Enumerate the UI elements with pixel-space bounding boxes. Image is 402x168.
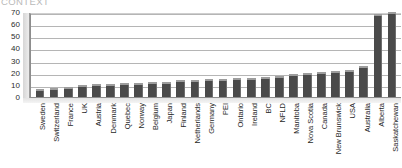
bar[interactable] [106, 86, 115, 97]
x-label-slot: Canada [314, 103, 328, 168]
x-label-slot: Saskatchewan [385, 103, 399, 168]
bar-slot [89, 14, 103, 97]
bar-slot [117, 14, 131, 97]
plot-area [30, 13, 401, 98]
x-label-slot: Norway [131, 103, 145, 168]
bar-slot [75, 14, 89, 97]
y-axis-tick: 50 [11, 33, 20, 41]
bar[interactable] [36, 91, 45, 97]
x-label-slot: France [60, 103, 74, 168]
bar[interactable] [50, 90, 59, 97]
bar-slot [343, 14, 357, 97]
context-heading: CONTEXT [1, 0, 49, 5]
bar-slot [33, 14, 47, 97]
x-label-slot: Manitoba [286, 103, 300, 168]
y-axis-tick: 0 [16, 94, 20, 102]
bar[interactable] [345, 72, 354, 98]
bar[interactable] [134, 85, 143, 97]
bar[interactable] [374, 16, 383, 97]
bar-chart: 706050403020100 SwedenSwitzerlandFranceU… [0, 13, 402, 168]
bar[interactable] [359, 68, 368, 97]
bar-slot [286, 14, 300, 97]
bar[interactable] [191, 82, 200, 97]
bar[interactable] [162, 84, 171, 97]
x-label-slot: Germany [201, 103, 215, 168]
bar-slot [188, 14, 202, 97]
bar[interactable] [64, 89, 73, 98]
bar[interactable] [289, 76, 298, 97]
x-label-slot: Ontario [230, 103, 244, 168]
bar-slot [174, 14, 188, 97]
bar-slot [258, 14, 272, 97]
bar-slot [357, 14, 371, 97]
chart-page: CONTEXT 706050403020100 SwedenSwitzerlan… [0, 0, 402, 168]
x-label-slot: UK [74, 103, 88, 168]
x-label-slot: Finland [173, 103, 187, 168]
x-axis-label: Saskatchewan [392, 103, 400, 152]
bar-series [31, 14, 401, 97]
bar[interactable] [92, 86, 101, 97]
bar-slot [371, 14, 385, 97]
bar-slot [244, 14, 258, 97]
bar[interactable] [303, 75, 312, 97]
x-label-slot: Sweden [32, 103, 46, 168]
y-axis-tick: 30 [11, 58, 20, 66]
bar-slot [103, 14, 117, 97]
x-label-slot: Denmark [103, 103, 117, 168]
x-label-slot: Austria [88, 103, 102, 168]
y-axis-tick: 40 [11, 45, 20, 53]
x-label-slot: USA [342, 103, 356, 168]
y-axis-tick: 20 [11, 70, 20, 78]
bar[interactable] [148, 84, 157, 97]
bar-slot [47, 14, 61, 97]
y-axis: 706050403020100 [0, 13, 22, 99]
bar-slot [272, 14, 286, 97]
bar[interactable] [205, 81, 214, 97]
x-label-slot: BC [258, 103, 272, 168]
bar[interactable] [388, 14, 397, 97]
x-label-slot: PEI [215, 103, 229, 168]
x-label-slot: Belgium [145, 103, 159, 168]
bar[interactable] [78, 87, 87, 97]
bar-slot [61, 14, 75, 97]
bar-slot [132, 14, 146, 97]
chart-left-wall [23, 13, 30, 98]
x-label-slot: Japan [159, 103, 173, 168]
bar[interactable] [261, 79, 270, 97]
x-label-slot: Netherlands [187, 103, 201, 168]
bar[interactable] [219, 81, 228, 97]
bar[interactable] [317, 74, 326, 97]
y-axis-tick: 10 [11, 82, 20, 90]
x-label-slot: New Brunswick [328, 103, 342, 168]
x-axis-labels: SwedenSwitzerlandFranceUKAustriaDenmarkQ… [30, 103, 401, 168]
bar-slot [146, 14, 160, 97]
bar[interactable] [233, 80, 242, 97]
bar[interactable] [247, 80, 256, 97]
bar-slot [329, 14, 343, 97]
x-label-slot: Alberta [371, 103, 385, 168]
x-label-slot: Australia [357, 103, 371, 168]
bar-slot [160, 14, 174, 97]
bar-slot [315, 14, 329, 97]
bar[interactable] [176, 82, 185, 97]
bar-slot [230, 14, 244, 97]
x-label-slot: Quebec [117, 103, 131, 168]
y-axis-tick: 70 [11, 9, 20, 17]
x-label-slot: Ireland [244, 103, 258, 168]
bar-slot [300, 14, 314, 97]
x-label-slot: NFLD [272, 103, 286, 168]
bar-slot [385, 14, 399, 97]
x-label-slot: Switzerland [46, 103, 60, 168]
y-axis-tick: 60 [11, 21, 20, 29]
bar-slot [216, 14, 230, 97]
x-label-slot: Nova Scotia [300, 103, 314, 168]
bar-slot [202, 14, 216, 97]
bar[interactable] [120, 85, 129, 97]
bar[interactable] [331, 73, 340, 97]
bar[interactable] [275, 78, 284, 97]
